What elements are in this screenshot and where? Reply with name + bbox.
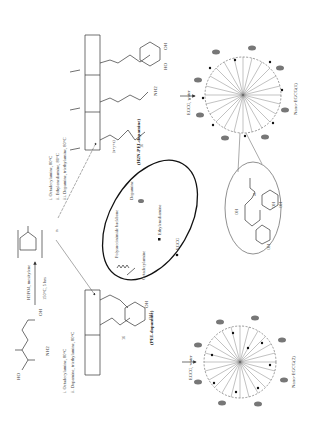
egcg-icon [176,254,179,257]
left-condition-1: i. Octadecylamine, 80°C [62,349,68,393]
legend: Polysuccinimide backbone Octadecylamine … [83,144,217,297]
ho-label: HO [16,372,21,380]
inset-n: N [253,192,256,197]
legend-octadecylamine: Octadecylamine [141,251,146,280]
left-condition-2: ii. Dopamine, triethylamine, 80°C [70,332,76,393]
arrow-to-left-route [56,240,95,295]
left-egcg-reagent: EGCG, water [188,355,194,380]
nano-egcg-1-label: Nano-EGCG(1) [293,83,298,115]
oh-label-2: OH [144,300,149,308]
legend-dopamine: Dopamine [129,181,134,200]
zoom-line-2 [246,133,262,164]
right-condition-2: ii. Ethylenediamine, 80°C [55,153,61,200]
sub-label: (x+y+z) [111,139,116,153]
right-egcg-reagent: EGCG, water [186,90,192,115]
ho-label: HO [163,62,168,70]
inset-oh-2: OH [271,202,276,208]
nh2-label: NH2 [153,86,158,96]
legend-ethylenediamine: Ethylenediamine [157,205,162,236]
backbone-icon [117,265,129,268]
aspartic-acid-structure: HO OH NH2 [15,308,50,380]
legend-backbone: Polysuccinimide backbone [114,210,119,258]
pei-dopamine-structure: OH OH 16 [85,290,153,375]
nano-egcg-1-particle [194,46,289,141]
zoom-line-1 [238,133,240,172]
h2n-pei-dopamine-structure: NH2 HO OH (x+y+z) 16 [70,35,168,153]
psi-n: n [54,229,59,232]
inset-oh-3: OH [278,202,283,208]
right-condition-1: i. Octadecylamine, 80°C [48,156,54,200]
oh-label: OH [163,42,168,50]
octadecylamine-icon [127,268,135,275]
left-product-label: (PEI-dopamine) [149,310,154,345]
polysuccinimide-structure: n [18,226,59,258]
ethylenediamine-icon [158,238,161,241]
nano-egcg-2-particle [194,316,288,407]
inset-oh-1: OH [234,209,239,215]
inset-oh-4: OH [266,244,271,250]
chain-label: 16 [121,336,126,340]
synthesis-scheme: HO OH NH2 H3PO4, mesitylene 150°C, 5 hrs… [0,0,310,441]
inset-structure: N OH OH OH OH [225,162,283,254]
oh-label: OH [38,308,43,316]
right-condition-3: iii. Dopamine, triethylamine, 80°C [62,137,68,200]
step1-reagent: H3PO4, mesitylene [26,265,32,300]
nh2-label: NH2 [45,346,50,356]
right-product-label: (H2N-PEI-dopamine) [136,119,141,165]
step1-conditions: 150°C, 5 hrs [42,277,48,300]
nano-egcg-2-label: Nano-EGCG(2) [291,356,296,388]
legend-egcg: EGCG [175,237,180,250]
dopamine-icon [138,199,144,203]
